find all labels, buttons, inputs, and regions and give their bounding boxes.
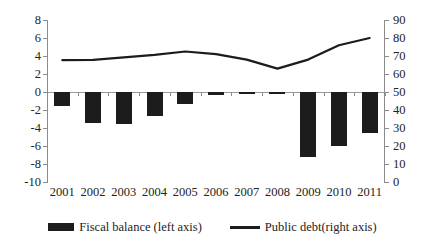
right-tick-mark bbox=[385, 110, 389, 111]
plot-area bbox=[47, 20, 385, 182]
x-label-2010: 2010 bbox=[324, 186, 355, 199]
x-label-2009: 2009 bbox=[293, 186, 324, 199]
right-tick-mark bbox=[385, 20, 389, 21]
right-tick-label: 80 bbox=[393, 32, 425, 45]
left-tick-label: -6 bbox=[0, 140, 41, 153]
x-label-2006: 2006 bbox=[201, 186, 232, 199]
right-tick-label: 0 bbox=[393, 176, 425, 189]
left-tick-label: -4 bbox=[0, 122, 41, 135]
x-tick-mark bbox=[385, 92, 386, 96]
x-label-2001: 2001 bbox=[47, 186, 78, 199]
right-tick-label: 60 bbox=[393, 68, 425, 81]
x-axis-category-labels: 2001200220032004200520062007200820092010… bbox=[47, 186, 385, 204]
line-series-public-debt bbox=[47, 20, 385, 183]
x-label-2011: 2011 bbox=[354, 186, 385, 199]
chart-container: 86420-2-4-6-8-10 9080706050403020100 200… bbox=[0, 0, 425, 250]
chart-legend: Fiscal balance (left axis) Public debt(r… bbox=[0, 216, 425, 238]
left-tick-label: 2 bbox=[0, 68, 41, 81]
right-tick-label: 70 bbox=[393, 50, 425, 63]
right-tick-mark bbox=[385, 38, 389, 39]
right-tick-mark bbox=[385, 74, 389, 75]
left-tick-label: -8 bbox=[0, 158, 41, 171]
legend-label-public-debt: Public debt(right axis) bbox=[265, 221, 377, 234]
left-tick-label: 6 bbox=[0, 32, 41, 45]
right-tick-label: 30 bbox=[393, 122, 425, 135]
line-swatch-icon bbox=[230, 226, 260, 229]
bar-swatch-icon bbox=[48, 223, 74, 231]
right-tick-label: 20 bbox=[393, 140, 425, 153]
right-tick-label: 90 bbox=[393, 14, 425, 27]
right-tick-mark bbox=[385, 164, 389, 165]
x-label-2008: 2008 bbox=[262, 186, 293, 199]
x-label-2002: 2002 bbox=[78, 186, 109, 199]
right-tick-mark bbox=[385, 56, 389, 57]
right-tick-mark bbox=[385, 146, 389, 147]
left-tick-label: -10 bbox=[0, 176, 41, 189]
right-tick-label: 50 bbox=[393, 86, 425, 99]
legend-item-public-debt: Public debt(right axis) bbox=[230, 221, 377, 234]
legend-label-fiscal-balance: Fiscal balance (left axis) bbox=[79, 221, 202, 234]
right-tick-mark bbox=[385, 182, 389, 183]
right-tick-label: 10 bbox=[393, 158, 425, 171]
left-tick-label: 4 bbox=[0, 50, 41, 63]
left-tick-label: 8 bbox=[0, 14, 41, 27]
legend-item-fiscal-balance: Fiscal balance (left axis) bbox=[48, 221, 202, 234]
right-tick-label: 40 bbox=[393, 104, 425, 117]
left-tick-label: 0 bbox=[0, 86, 41, 99]
x-label-2005: 2005 bbox=[170, 186, 201, 199]
left-tick-label: -2 bbox=[0, 104, 41, 117]
x-label-2007: 2007 bbox=[231, 186, 262, 199]
right-tick-mark bbox=[385, 128, 389, 129]
x-label-2003: 2003 bbox=[108, 186, 139, 199]
x-label-2004: 2004 bbox=[139, 186, 170, 199]
